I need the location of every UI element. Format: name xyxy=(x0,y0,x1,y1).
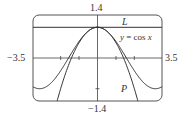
y-max-label: 1.4 xyxy=(90,3,103,13)
x-min-label: −3.5 xyxy=(7,53,25,63)
label-P: P xyxy=(121,84,127,94)
label-L: L xyxy=(122,17,128,27)
x-max-label: 3.5 xyxy=(165,53,178,63)
chart-canvas xyxy=(0,0,182,118)
y-min-label: −1.4 xyxy=(88,104,106,114)
label-cos: y = cos x xyxy=(120,33,152,42)
